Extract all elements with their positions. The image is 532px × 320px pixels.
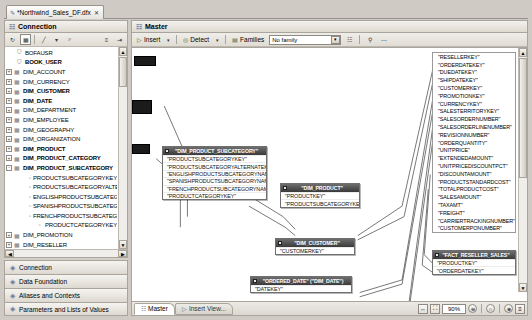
filter-dropdown[interactable]: ▾ [51,34,62,45]
table-field[interactable]: "ENGLISHPRODUCTSUBCATEGORYNAME" [163,170,266,177]
collapsed-table-block[interactable] [134,56,156,66]
show-values-button[interactable]: ☷ [344,34,355,45]
tree-node[interactable]: +▦DIM_PRODUCT [6,144,117,154]
table-field[interactable]: "PRODUCTSUBCATEGORYKEY" [163,155,266,162]
document-tab[interactable]: ✎ *Northwind_Sales_DF.dfx ✕ [6,5,104,19]
expand-icon[interactable]: + [6,88,12,94]
tree-vertical-scrollbar[interactable]: ▲ ▼ [118,47,127,249]
diagram-table-ordered-date[interactable]: "ORDERED_DATE" ("DIM_DATE") "DATEKEY" [250,276,352,293]
canvas-vertical-scrollbar[interactable]: ▲ ▼ [518,48,527,292]
more-icon[interactable]: ⋯ [378,34,389,45]
table-field[interactable]: "DISCOUNTAMOUNT" [433,170,515,178]
table-header[interactable]: "FACT_RESELLER_SALES" [433,251,515,259]
diagram-table-dim-product-subcategory[interactable]: "DIM_PRODUCT_SUBCATEGORY" "PRODUCTSUBCAT… [162,146,267,200]
list-view-button[interactable]: ≡ [101,34,112,45]
hscroll-track[interactable] [14,250,118,257]
tree-node[interactable]: ⛉BOOK_USER [6,58,117,68]
view-tab-master[interactable]: ☷ Master [134,303,175,315]
tree-node[interactable]: ▫PRODUCTSUBCATEGORYKEY [6,173,117,183]
table-field[interactable]: "SALESAMOUNT" [433,193,515,201]
fit-width-icon[interactable]: ↔ [418,304,428,314]
diagram-table-dim-customer[interactable]: "DIM_CUSTOMER" "CUSTOMERKEY" [275,238,355,255]
table-field[interactable]: "UNITPRICE" [433,147,515,155]
collapse-icon[interactable]: - [6,165,12,171]
table-field[interactable]: "CUSTOMERKEY" [433,84,515,92]
expand-icon[interactable]: + [6,98,12,104]
insert-table-button[interactable]: ▦ [20,34,31,45]
scroll-down-arrow-icon[interactable]: ▼ [119,240,127,249]
table-field[interactable]: "PRODUCTSTANDARDCOST" [433,178,515,186]
fit-page-icon[interactable]: ⛶ [430,304,440,314]
table-field[interactable]: "TAXAMT" [433,201,515,209]
accordion-item-connection[interactable]: ◈Connection [4,260,128,274]
tree-node[interactable]: ⛉BOFAUSR [6,48,117,58]
table-field[interactable]: "RESELLERKEY" [433,53,515,61]
table-field[interactable]: "SALESORDERLINENUMBER" [433,123,515,131]
family-select[interactable]: No family ▾ [269,35,341,45]
expand-icon[interactable]: + [6,155,12,161]
expand-icon[interactable]: + [6,136,12,142]
diagram-surface[interactable]: "DIM_PRODUCT_SUBCATEGORY" "PRODUCTSUBCAT… [132,48,527,301]
tree-node[interactable]: +▦DIM_ORGANIZATION [6,134,117,144]
scroll-left-arrow-icon[interactable]: ◀ [5,250,14,257]
table-field[interactable]: "EXTENDEDAMOUNT" [433,154,515,162]
zoom-level-value[interactable]: 90% [442,304,466,314]
table-field[interactable]: "PRODUCTKEY" [281,192,359,199]
expand-icon[interactable]: + [6,107,12,113]
tree-node[interactable]: +▦DIM_PROMOTION [6,230,117,240]
scroll-thumb[interactable] [519,58,527,178]
expand-icon[interactable]: + [6,117,12,123]
search-icon[interactable]: ⌕ [64,34,75,45]
table-field[interactable]: "UNITPRICEDISCOUNTPCT" [433,162,515,170]
filter-button[interactable]: ╱ [38,34,49,45]
detect-button[interactable]: ◎ Detect [181,34,211,45]
families-button[interactable]: ▤ Families [230,34,266,45]
zoom-in-button[interactable]: ⊕ [504,304,513,313]
tree-node[interactable]: -▦DIM_PRODUCT_SUBCATEGORY [6,163,117,173]
table-field[interactable]: "CUSTOMERPONUMBER" [433,225,515,233]
expand-all-button[interactable]: ⇥ [114,34,125,45]
expand-icon[interactable]: + [6,79,12,85]
tree-node[interactable]: +▦DIM_EMPLOYEE [6,115,117,125]
scroll-track[interactable] [119,87,127,240]
table-field[interactable]: "SPANISHPRODUCTSUBCATEGORYNAME" [163,177,266,184]
table-header[interactable]: "ORDERED_DATE" ("DIM_DATE") [251,277,351,285]
table-field[interactable]: "PROMOTIONKEY" [433,92,515,100]
tree-horizontal-scrollbar[interactable]: ◀ ▶ [4,249,128,258]
collapsed-table-block[interactable] [132,144,150,154]
table-header[interactable]: "DIM_PRODUCT" [281,184,359,192]
tree-node[interactable]: +▦DIM_DATE [6,96,117,106]
help-icon[interactable]: ⚲ [364,34,375,45]
diagram-table-fact-reseller-sales[interactable]: "FACT_RESELLER_SALES" "PRODUCTKEY" "ORDE… [432,250,516,275]
table-field[interactable]: "FREIGHT" [433,209,515,217]
table-field[interactable]: "SALESORDERNUMBER" [433,115,515,123]
table-field[interactable]: "DUEDATEKEY" [433,69,515,77]
zoom-slider-handle[interactable]: ○ [486,304,495,313]
tree-node[interactable]: ▫SPANISHPRODUCTSUBCATEGORYNAME [6,202,117,212]
table-field[interactable]: "CURRENCYKEY" [433,100,515,108]
diagram-field-list[interactable]: "RESELLERKEY""ORDERDATEKEY""DUEDATEKEY""… [432,52,516,233]
accordion-item-aliases-and-contexts[interactable]: ◈Aliases and Contexts [4,288,128,302]
table-field[interactable]: "SALESTERRITORYKEY" [433,108,515,116]
table-field[interactable]: "PRODUCTKEY" [433,259,515,266]
tree-node[interactable]: +▦DIM_GEOGRAPHY [6,125,117,135]
accordion-item-parameters-and-lists-of-values[interactable]: ◈Parameters and Lists of Values [4,302,128,316]
collapsed-table-block[interactable] [132,100,152,114]
table-header[interactable]: "DIM_PRODUCT_SUBCATEGORY" [163,147,266,155]
scroll-track[interactable] [519,179,527,283]
expand-icon[interactable]: + [6,242,12,248]
tree-node[interactable]: +▦DIM_CUSTOMER [6,86,117,96]
diagram-canvas[interactable]: "DIM_PRODUCT_SUBCATEGORY" "PRODUCTSUBCAT… [131,47,528,302]
table-field[interactable]: "CUSTOMERKEY" [276,247,354,254]
zoom-menu-icon[interactable]: ≡ [515,304,525,314]
tree-node[interactable]: +▦DIM_RESELLER [6,240,117,249]
table-field[interactable]: "ORDERDATEKEY" [433,61,515,69]
tree-node[interactable]: +▦DIM_DEPARTMENT [6,106,117,116]
detect-dropdown-caret-icon[interactable]: ▾ [214,37,221,43]
tree-node[interactable]: ▫PRODUCTCATEGORYKEY [6,221,117,231]
scroll-up-arrow-icon[interactable]: ▲ [119,47,127,56]
table-field[interactable]: "REVISIONNUMBER" [433,131,515,139]
tree-node[interactable]: ▫FRENCHPRODUCTSUBCATEGORYNAME [6,211,117,221]
accordion-item-data-foundation[interactable]: ◈Data Foundation [4,274,128,288]
scroll-thumb[interactable] [119,57,127,87]
